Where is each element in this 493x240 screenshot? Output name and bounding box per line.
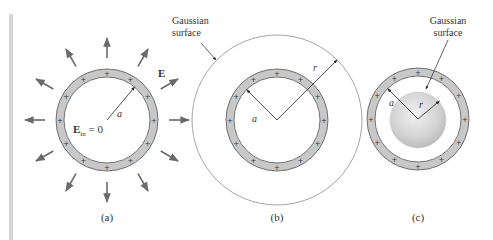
gauss-law-spherical-shell-diagram: ++++++++++++ a E Ein = 0 (a) +++++++++++… [0,0,493,240]
positive-charge-symbol: + [63,93,69,101]
gaussian-label-line2: surface [172,27,201,38]
field-E-label: E [158,67,165,79]
positive-charge-symbol: + [251,157,257,165]
gaussian-label-line1: Gaussian [430,15,467,26]
positive-charge-symbol: + [315,93,321,101]
positive-charge-symbol: + [151,117,157,125]
positive-charge-symbol: + [462,116,468,124]
gaussian-pointer-arrow [201,43,216,60]
positive-charge-symbol: + [321,117,327,125]
positive-charge-symbol: + [57,117,63,125]
positive-charge-symbol: + [81,157,87,165]
field-arrow [138,49,148,66]
field-arrow [66,174,76,191]
positive-charge-symbol: + [274,164,280,172]
charged-shell: ++++++++++++ [56,69,158,172]
positive-charge-symbol: + [439,75,445,83]
radius-r-arrow [277,60,337,120]
positive-charge-symbol: + [128,76,134,84]
field-arrow [36,79,53,89]
positive-charge-symbol: + [81,76,87,84]
positive-charge-symbol: + [415,163,421,171]
positive-charge-symbol: + [374,139,380,147]
field-inside-symbol: E [73,123,80,135]
field-inside-equals: = 0 [86,123,104,135]
positive-charge-symbol: + [104,70,110,78]
positive-charge-symbol: + [456,139,462,147]
panel-c-gaussian-inside: ++++++++++++ a r Gaussian surface (c) [367,15,469,224]
positive-charge-symbol: + [251,76,257,84]
radius-a-label: a [252,113,257,124]
gaussian-label-line1: Gaussian [172,15,209,26]
positive-charge-symbol: + [63,140,69,148]
radius-a-label: a [117,108,122,119]
field-inside-zero-label: Ein = 0 [73,123,104,138]
positive-charge-symbol: + [392,156,398,164]
field-arrow [138,174,148,191]
positive-charge-symbol: + [145,93,151,101]
gaussian-label-line2: surface [434,27,463,38]
positive-charge-symbol: + [104,164,110,172]
positive-charge-symbol: + [392,75,398,83]
caption-b: (b) [271,211,284,224]
field-arrow [161,79,178,89]
panel-b-gaussian-outside: ++++++++++++ a r Gaussian surface (b) [172,15,362,224]
positive-charge-symbol: + [274,70,280,78]
radius-r-label: r [419,99,423,110]
positive-charge-symbol: + [128,157,134,165]
positive-charge-symbol: + [145,140,151,148]
caption-a: (a) [101,211,114,224]
radius-r-label: r [313,62,317,73]
positive-charge-symbol: + [233,93,239,101]
field-arrow [66,49,76,66]
positive-charge-symbol: + [233,140,239,148]
positive-charge-symbol: + [368,116,374,124]
positive-charge-symbol: + [315,140,321,148]
gaussian-sphere-inner [390,92,446,148]
field-arrow [161,151,178,161]
positive-charge-symbol: + [374,92,380,100]
positive-charge-symbol: + [415,69,421,77]
positive-charge-symbol: + [439,156,445,164]
field-arrow [36,151,53,161]
positive-charge-symbol: + [227,117,233,125]
positive-charge-symbol: + [456,92,462,100]
panel-a-charged-shell-field: ++++++++++++ a E Ein = 0 (a) [25,38,189,224]
positive-charge-symbol: + [298,76,304,84]
caption-c: (c) [412,211,425,224]
positive-charge-symbol: + [298,157,304,165]
radius-a-label: a [389,97,394,108]
